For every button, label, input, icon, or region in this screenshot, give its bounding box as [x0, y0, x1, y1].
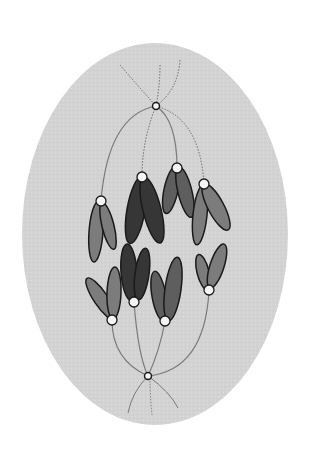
top-centrosome [153, 103, 160, 110]
anaphase-diagram [0, 0, 310, 452]
bottom-centrosome [145, 373, 152, 380]
